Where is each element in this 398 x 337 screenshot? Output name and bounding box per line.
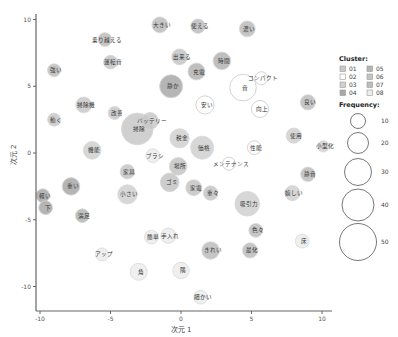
point-label: 音 [242,84,248,92]
y-ticks: -10-50510 [21,16,36,290]
cluster-legend-label: 04 [349,89,357,96]
point-label: 使える [191,22,209,30]
point-label: 性能 [250,144,262,152]
point-label: 軽い [39,192,51,200]
frequency-legend-circle [348,133,369,154]
point-label: 細かい [194,293,212,301]
x-axis-label: 次元 1 [171,325,192,334]
point-label: 運転音 [104,58,122,66]
point-label: 床 [301,237,307,245]
frequency-legend-items: 1020304050 [340,114,389,261]
point-label: 場所 [174,162,186,170]
point-label: 掃除機 [77,101,95,109]
point-label: 動く [50,116,62,124]
point-label: 簡単 [147,233,159,241]
y-tick-label: 10 [23,16,31,23]
point-label: 満足 [78,213,90,220]
point-label: 重々 [207,189,219,196]
cluster-legend-items: 0102030405060708 [340,65,384,96]
frequency-legend-label: 50 [381,238,389,245]
point-label: 小さい [120,190,138,198]
frequency-legend-label: 20 [381,139,389,146]
point-label: 税金 [176,134,188,142]
y-tick-label: -5 [25,216,31,223]
point-label: 使用 [290,132,302,140]
point-label: 向上 [256,105,268,112]
point-label: 大きい [153,21,171,29]
point-label: 時間 [218,57,230,65]
point-label: 濃い [243,25,255,33]
cluster-swatch [367,74,373,80]
point-label: 手入れ [161,232,179,240]
point-label: 小型化 [316,142,334,150]
cluster-legend-label: 02 [349,73,357,80]
point-label: きれい [204,247,222,253]
x-ticks: -10-50510 [35,311,326,322]
cluster-swatch [367,82,373,88]
cluster-legend-label: 06 [376,73,384,80]
point-label: メンテナンス [213,161,249,168]
point-label: 静音 [304,170,316,178]
chart-canvas: 大きい使える濃い乗り越える運転音出来る充電時間強いコンパクト音静か良い安い向上掃… [0,0,398,337]
point-label: 充電 [193,68,205,76]
frequency-legend-circle [351,114,366,129]
point-label: 最化 [246,246,258,254]
cluster-legend-label: 01 [349,65,357,72]
frequency-legend-circle [342,189,374,221]
frequency-legend-circle [340,224,377,261]
y-tick-label: -10 [21,283,31,290]
bubble-layer [36,17,329,304]
point-label: 重い [67,182,79,189]
x-tick-label: -5 [108,315,114,322]
point-label: 価格 [198,144,210,152]
point-label: 出来る [173,53,191,61]
cluster-legend-label: 05 [376,65,384,72]
point-label: 下 [45,205,51,212]
x-tick-label: 5 [250,315,254,322]
bubble-chart: 大きい使える濃い乗り越える運転音出来る充電時間強いコンパクト音静か良い安い向上掃… [0,0,398,337]
point-label: バッテリー [137,118,167,125]
x-tick-label: 10 [318,315,326,322]
point-label: アップ [95,251,113,257]
point-label: ブラシ [146,152,164,159]
point-label: ゴミ [166,178,178,185]
x-tick-label: -10 [35,315,45,322]
point-label: 角 [138,268,144,276]
legend: Cluster: 0102030405060708 Frequency: 102… [339,55,389,261]
cluster-swatch [340,66,346,72]
point-label: 良い [304,98,316,106]
frequency-legend-label: 30 [381,168,389,175]
point-label: 隅 [180,266,186,274]
frequency-legend-label: 40 [381,201,389,208]
point-label: 家具 [123,168,135,176]
point-label: 機能 [88,146,100,154]
frequency-legend-label: 10 [381,117,389,124]
point-label: 嬉しい [285,189,303,197]
point-label: 安い [201,101,213,109]
frequency-legend-title: Frequency: [339,101,380,109]
cluster-legend-label: 03 [349,81,357,88]
point-label: 色々 [252,226,264,233]
cluster-swatch [340,82,346,88]
y-tick-label: 0 [27,149,31,156]
cluster-legend-label: 07 [376,81,384,88]
cluster-swatch [367,90,373,96]
point-label: コンパクト [248,75,278,81]
point-label: 改善 [111,109,123,117]
point-label: 家電 [190,184,202,192]
x-tick-label: 0 [179,315,183,322]
cluster-legend-label: 08 [376,89,384,96]
frequency-legend-circle [345,159,372,186]
cluster-swatch [367,66,373,72]
cluster-swatch [340,74,346,80]
point-label: 吸引力 [240,200,258,208]
point-label: 静か [167,82,179,90]
y-tick-label: 5 [27,82,31,89]
point-label: 掃除 [133,125,145,133]
cluster-legend-title: Cluster: [339,55,368,63]
cluster-swatch [340,90,346,96]
y-axis-label: 次元 2 [9,145,18,166]
point-label: 乗り越える [92,36,122,44]
point-label: 強い [50,66,62,74]
label-layer: 大きい使える濃い乗り越える運転音出来る充電時間強いコンパクト音静か良い安い向上掃… [39,21,335,301]
